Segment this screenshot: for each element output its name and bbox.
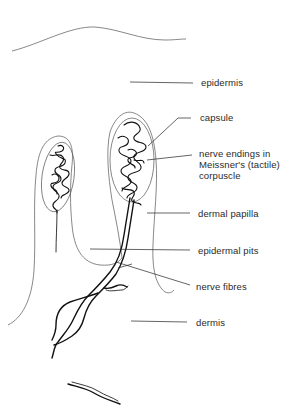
left-papilla-outline (8, 136, 122, 325)
label-nerve-fibres: nerve fibres (196, 281, 247, 292)
nerve-fibres-leader (116, 262, 190, 285)
nerve-fibres-bundle (52, 198, 134, 404)
label-nerve-endings: nerve endings in Meissner's (tactile) co… (199, 148, 280, 181)
epidermis-leader (130, 82, 193, 83)
left-nerve-coil (50, 145, 69, 252)
right-papilla-outline (108, 112, 174, 293)
capsule-leader (148, 118, 191, 146)
skin-section-diagram: epidermis capsule nerve endings in Meiss… (0, 0, 299, 412)
diagram-drawing (0, 0, 299, 412)
label-epidermal-pits: epidermal pits (198, 245, 259, 256)
label-dermis: dermis (196, 317, 225, 328)
label-epidermis: epidermis (201, 77, 243, 88)
label-capsule: capsule (200, 112, 233, 123)
label-dermal-papilla: dermal papilla (198, 208, 259, 219)
epidermal-pits-leader (90, 249, 190, 250)
dermis-leader (131, 321, 187, 322)
right-nerve-coil (118, 122, 146, 205)
skin-surface-line (12, 27, 186, 51)
